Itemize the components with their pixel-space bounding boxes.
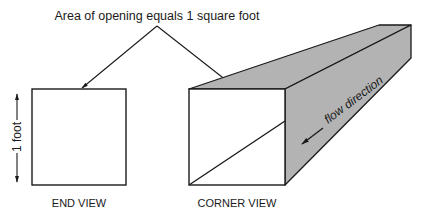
title-label: Area of opening equals 1 square foot [54,9,260,23]
corner-view-opening [189,89,285,185]
corner-view: flow direction CORNER VIEW [189,25,411,209]
end-view-label: END VIEW [52,197,107,209]
corner-view-label: CORNER VIEW [198,197,277,209]
end-view: 1 foot END VIEW [10,89,126,209]
dimension-label: 1 foot [10,121,24,152]
leader-lines [82,26,236,88]
duct-diagram: Area of opening equals 1 square foot 1 f… [0,0,424,218]
end-view-opening [32,89,126,185]
